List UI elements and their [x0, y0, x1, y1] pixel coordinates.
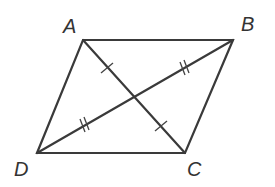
parallelogram-diagram: A B C D: [0, 0, 275, 187]
vertex-label-b: B: [241, 13, 254, 35]
diagonal-bd: [37, 40, 233, 153]
vertex-label-c: C: [187, 158, 202, 180]
vertex-label-d: D: [14, 158, 28, 180]
vertex-label-a: A: [62, 15, 76, 37]
